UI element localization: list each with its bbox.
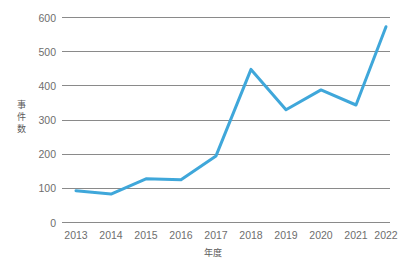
y-axis-tick-labels: 600 500 400 300 200 100 0: [38, 12, 56, 229]
xtick-label-2015: 2015: [134, 229, 158, 241]
ytick-label-500: 500: [38, 46, 56, 58]
xtick-label-2018: 2018: [239, 229, 263, 241]
xtick-label-2017: 2017: [204, 229, 228, 241]
ytick-label-0: 0: [50, 217, 56, 229]
xtick-label-2022: 2022: [374, 229, 398, 241]
xtick-label-2019: 2019: [274, 229, 298, 241]
ytick-label-200: 200: [38, 148, 56, 160]
xtick-label-2021: 2021: [344, 229, 368, 241]
xtick-label-2013: 2013: [64, 229, 88, 241]
xtick-label-2016: 2016: [169, 229, 193, 241]
x-axis-tick-labels: 2013 2014 2015 2016 2017 2018 2019 2020 …: [64, 229, 398, 241]
ytick-label-300: 300: [38, 114, 56, 126]
ytick-label-400: 400: [38, 80, 56, 92]
x-axis-title: 年度: [204, 247, 222, 258]
ytick-label-600: 600: [38, 12, 56, 24]
ytick-label-100: 100: [38, 182, 56, 194]
line-chart: 事 件 数 600 500 400 300 200 100 0 2013 201…: [0, 0, 404, 275]
chart-canvas: 600 500 400 300 200 100 0 2013 2014 2015…: [0, 0, 404, 275]
xtick-label-2020: 2020: [309, 229, 333, 241]
xtick-label-2014: 2014: [99, 229, 123, 241]
y-gridlines: [62, 18, 390, 223]
